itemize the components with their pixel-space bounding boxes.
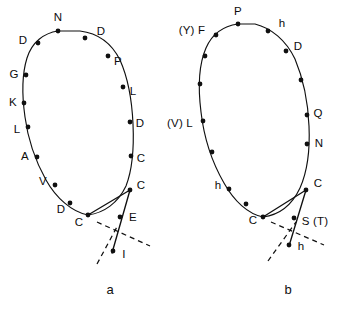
- panel-caption-b: b: [284, 283, 291, 296]
- residue-dot[interactable]: [35, 155, 40, 160]
- residue-dot[interactable]: [214, 33, 219, 38]
- diagram-canvas: [0, 0, 339, 311]
- residue-dot[interactable]: [118, 215, 123, 220]
- residue-label: D: [294, 41, 303, 53]
- residue-label: L: [130, 86, 137, 98]
- residue-dot[interactable]: [236, 22, 241, 27]
- residue-label: D: [19, 35, 28, 47]
- residue-dot[interactable]: [266, 29, 271, 34]
- residue-dot[interactable]: [227, 187, 232, 192]
- residue-label: D: [136, 118, 145, 130]
- residue-dot[interactable]: [128, 188, 133, 193]
- residue-label: (V) L: [167, 118, 193, 130]
- residue-label: N: [315, 138, 324, 150]
- residue-dot[interactable]: [106, 54, 111, 59]
- residue-dot[interactable]: [53, 183, 58, 188]
- residue-label: K: [9, 97, 17, 109]
- dashed-line-1: [268, 222, 296, 261]
- residue-dot[interactable]: [36, 41, 41, 46]
- residue-label: P: [114, 56, 122, 68]
- residue-dot[interactable]: [111, 249, 116, 254]
- residue-dot[interactable]: [305, 142, 310, 147]
- residue-label: D: [57, 204, 66, 216]
- residue-label: C: [137, 180, 146, 192]
- residue-label: N: [54, 12, 63, 24]
- residue-label: S (T): [302, 216, 329, 228]
- residue-dot[interactable]: [261, 215, 266, 220]
- residue-dot[interactable]: [305, 113, 310, 118]
- residue-label: h: [298, 241, 305, 253]
- residue-dot[interactable]: [244, 202, 249, 207]
- residue-label: E: [129, 212, 137, 224]
- residue-label: D: [97, 26, 106, 38]
- residue-label: A: [21, 151, 29, 163]
- residue-dot[interactable]: [292, 216, 297, 221]
- residue-label: Q: [313, 108, 322, 120]
- dashed-line-0: [97, 222, 150, 246]
- residue-label: C: [314, 178, 323, 190]
- residue-label: C: [137, 153, 146, 165]
- residue-label: h: [279, 18, 286, 30]
- figure-container: NDDPGLKDLACVCDCEIaPh(Y) FDQ(V) LNChCS (T…: [0, 0, 339, 311]
- residue-label: C: [249, 215, 258, 227]
- residue-dot[interactable]: [284, 49, 289, 54]
- residue-label: (Y) F: [179, 25, 206, 37]
- residue-dot[interactable]: [201, 119, 206, 124]
- residue-label: h: [215, 180, 222, 192]
- residue-dot[interactable]: [86, 213, 91, 218]
- residue-dot[interactable]: [121, 85, 126, 90]
- residue-label: C: [75, 217, 84, 229]
- residue-dot[interactable]: [24, 73, 29, 78]
- panel-caption-a: a: [106, 283, 113, 296]
- residue-label: V: [39, 176, 47, 188]
- residue-dot[interactable]: [128, 120, 133, 125]
- residue-dot[interactable]: [299, 78, 304, 83]
- residue-dot[interactable]: [203, 54, 208, 59]
- panels-layer: [22, 22, 324, 264]
- residue-dot[interactable]: [22, 101, 27, 106]
- residue-dot[interactable]: [304, 188, 309, 193]
- residue-dot[interactable]: [83, 36, 88, 41]
- residue-label: I: [122, 249, 125, 261]
- residue-dot[interactable]: [68, 201, 73, 206]
- residue-label: G: [9, 69, 18, 81]
- residue-dot[interactable]: [210, 150, 215, 155]
- residue-label: L: [14, 124, 21, 136]
- residue-dot[interactable]: [287, 243, 292, 248]
- residue-label: P: [234, 6, 242, 18]
- residue-dot[interactable]: [198, 82, 203, 87]
- residue-dot[interactable]: [26, 125, 31, 130]
- residue-dot[interactable]: [129, 154, 134, 159]
- panel-a: [22, 29, 150, 264]
- residue-dot[interactable]: [56, 29, 61, 34]
